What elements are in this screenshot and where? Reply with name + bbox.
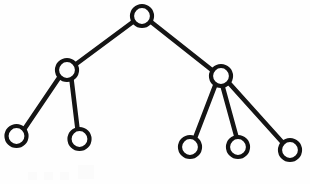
tree-node-circle-n-r[interactable] (211, 66, 231, 86)
tree-diagram-figure (0, 0, 310, 184)
tree-node-leaf-4[interactable] (228, 137, 248, 157)
tree-node-n-r[interactable] (211, 66, 231, 86)
tree-diagram-canvas (0, 0, 310, 184)
tree-node-circle-leaf-4[interactable] (228, 137, 248, 157)
tree-node-circle-leaf-2[interactable] (70, 129, 90, 149)
scan-smudge-3 (60, 172, 69, 180)
tree-node-circle-root[interactable] (132, 6, 152, 26)
tree-node-circle-leaf-3[interactable] (180, 137, 200, 157)
tree-node-root[interactable] (132, 6, 152, 26)
tree-node-leaf-3[interactable] (180, 137, 200, 157)
tree-node-leaf-5[interactable] (280, 140, 300, 160)
tree-node-leaf-2[interactable] (70, 129, 90, 149)
scan-smudge-1 (28, 172, 37, 180)
tree-node-circle-n-l[interactable] (57, 60, 77, 80)
tree-node-circle-leaf-5[interactable] (280, 140, 300, 160)
tree-node-leaf-1[interactable] (7, 126, 27, 146)
scan-smudge-4 (78, 165, 94, 179)
tree-node-n-l[interactable] (57, 60, 77, 80)
scan-smudge-2 (44, 172, 53, 180)
tree-node-circle-leaf-1[interactable] (7, 126, 27, 146)
